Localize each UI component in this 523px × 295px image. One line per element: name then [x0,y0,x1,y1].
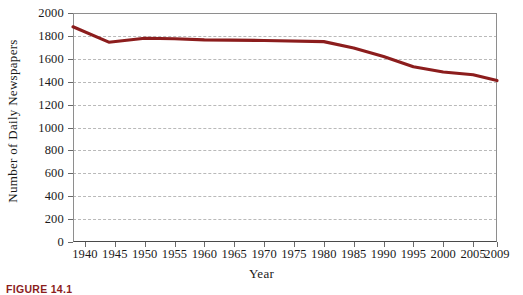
y-tick-mark [68,173,73,174]
x-tick-label: 1970 [251,248,276,261]
y-tick-mark [68,242,73,243]
y-tick-mark [68,13,73,14]
y-tick-label: 1800 [38,30,64,43]
y-tick-mark [68,150,73,151]
x-tick-label: 1950 [132,248,157,261]
x-tick-label: 2000 [431,248,456,261]
x-tick-label: 1960 [192,248,217,261]
y-tick-label: 0 [58,236,64,249]
y-tick-mark [68,128,73,129]
x-tick-label: 1940 [72,248,97,261]
series-line-chart [73,13,497,242]
x-tick-label: 1980 [311,248,336,261]
y-tick-mark [68,59,73,60]
y-axis-tick-labels: 0200400600800100012001400160018002000 [0,0,73,242]
x-tick-label: 1945 [102,248,127,261]
x-axis-tick-labels: 1940194519501955196019651970197519801985… [0,248,523,264]
x-tick-label: 2009 [484,248,509,261]
figure-container: Number of Daily Newspapers 0200400600800… [0,0,523,295]
x-tick-label: 1965 [222,248,247,261]
y-tick-label: 400 [45,190,64,203]
y-tick-mark [68,219,73,220]
plot-area [73,13,497,242]
series-daily-newspapers [73,27,497,81]
y-tick-mark [68,196,73,197]
y-tick-label: 1000 [38,121,64,134]
y-tick-label: 1400 [38,75,64,88]
x-tick-label: 1955 [162,248,187,261]
x-tick-label: 1995 [401,248,426,261]
x-tick-label: 1975 [281,248,306,261]
y-tick-label: 600 [45,167,64,180]
y-tick-label: 2000 [38,7,64,20]
y-tick-label: 1200 [38,98,64,111]
y-tick-label: 800 [45,144,64,157]
x-axis-title: Year [0,266,523,282]
y-tick-mark [68,105,73,106]
y-tick-label: 200 [45,213,64,226]
x-tick-label: 1985 [341,248,366,261]
y-tick-mark [68,82,73,83]
y-tick-mark [68,36,73,37]
x-tick-label: 2005 [460,248,485,261]
x-tick-label: 1990 [371,248,396,261]
y-tick-label: 1600 [38,53,64,66]
figure-caption: FIGURE 14.1 [6,283,72,295]
